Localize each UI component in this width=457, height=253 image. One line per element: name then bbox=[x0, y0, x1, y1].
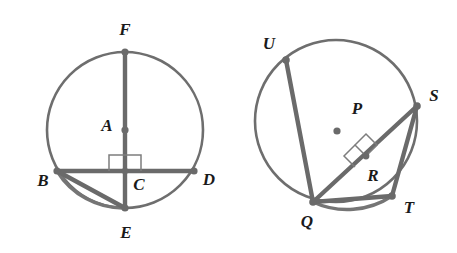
point-label-e: E bbox=[119, 223, 131, 242]
point-label-d: D bbox=[202, 170, 215, 189]
point-dot-c bbox=[122, 168, 128, 174]
point-dot-f bbox=[121, 48, 128, 55]
point-label-a: A bbox=[100, 116, 112, 135]
point-label-q: Q bbox=[301, 212, 313, 231]
point-dot-e bbox=[121, 204, 128, 211]
right-segment-uq bbox=[286, 60, 313, 202]
point-label-f: F bbox=[118, 20, 131, 39]
right-circle-outline bbox=[255, 40, 417, 202]
point-dot-s bbox=[413, 102, 421, 110]
right-circle-group: U P S R T Q bbox=[255, 34, 439, 231]
point-label-s: S bbox=[429, 86, 438, 105]
right-angle-marker-fcd bbox=[125, 155, 141, 171]
geometry-figure: F A B C D E bbox=[0, 0, 457, 253]
right-angle-marker-bcf bbox=[109, 155, 125, 171]
point-dot-b bbox=[53, 167, 60, 174]
point-label-r: R bbox=[366, 166, 378, 185]
point-dot-q bbox=[309, 198, 317, 206]
point-label-t: T bbox=[404, 198, 415, 217]
point-label-p: P bbox=[351, 99, 363, 118]
point-label-u: U bbox=[263, 34, 276, 53]
point-dot-a bbox=[121, 126, 128, 133]
left-circle-group: F A B C D E bbox=[36, 20, 215, 242]
point-dot-p bbox=[333, 127, 340, 134]
point-label-b: B bbox=[36, 171, 48, 190]
point-dot-r bbox=[363, 153, 370, 160]
point-dot-u bbox=[282, 56, 290, 64]
diagram-canvas: F A B C D E bbox=[0, 0, 457, 253]
point-dot-d bbox=[190, 167, 197, 174]
point-label-c: C bbox=[133, 175, 145, 194]
point-dot-t bbox=[388, 192, 396, 200]
